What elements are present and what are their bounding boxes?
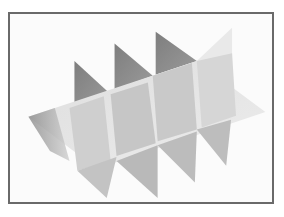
divider-grid-photo — [10, 14, 272, 202]
photo-frame: Photograph of an interlocking white pape… — [8, 12, 274, 204]
